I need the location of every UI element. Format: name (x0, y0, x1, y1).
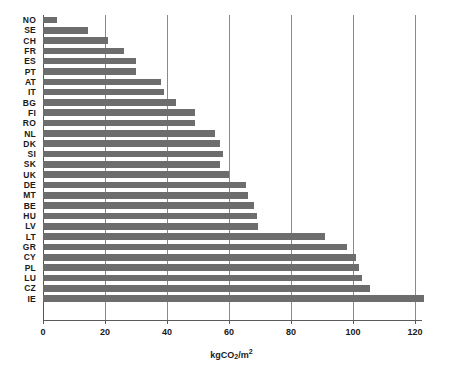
category-label-BG: BG (23, 98, 36, 108)
bar-SE (43, 27, 88, 34)
bar-row (43, 180, 443, 190)
category-label-SK: SK (24, 159, 36, 169)
bar-AT (43, 79, 161, 86)
category-label-BE: BE (24, 201, 36, 211)
bar-row (43, 98, 443, 108)
bar-CH (43, 37, 108, 44)
category-label-DE: DE (24, 180, 36, 190)
bars-layer (43, 15, 443, 320)
bar-row (43, 273, 443, 283)
bar-FR (43, 48, 124, 55)
bar-row (43, 25, 443, 35)
category-label-PT: PT (25, 67, 36, 77)
x-tick-mark-120 (415, 320, 416, 324)
x-tick-mark-60 (229, 320, 230, 324)
x-axis-line (43, 320, 422, 321)
category-label-AT: AT (25, 77, 36, 87)
bar-row (43, 139, 443, 149)
category-label-CY: CY (24, 252, 36, 262)
bar-row (43, 221, 443, 231)
bar-PL (43, 264, 359, 271)
bar-row (43, 46, 443, 56)
bar-row (43, 283, 443, 293)
category-label-FI: FI (28, 108, 36, 118)
bar-row (43, 252, 443, 262)
category-label-RO: RO (23, 118, 36, 128)
bar-NO (43, 17, 57, 24)
bar-ES (43, 58, 136, 65)
x-tick-label: 100 (345, 327, 360, 337)
bar-chart-figure: NOSECHFRESPTATITBGFIRONLDKSISKUKDEMTBEHU… (0, 0, 463, 377)
bar-GR (43, 244, 347, 251)
category-label-IT: IT (28, 87, 36, 97)
bar-row (43, 211, 443, 221)
bar-NL (43, 130, 215, 137)
bar-row (43, 87, 443, 97)
bar-LU (43, 275, 362, 282)
category-label-ES: ES (24, 56, 36, 66)
bar-row (43, 159, 443, 169)
bar-row (43, 67, 443, 77)
bar-DK (43, 140, 220, 147)
x-tick-mark-20 (105, 320, 106, 324)
bar-row (43, 129, 443, 139)
bar-row (43, 15, 443, 25)
bar-IE (43, 295, 424, 302)
bar-row (43, 36, 443, 46)
bar-FI (43, 109, 195, 116)
x-tick-mark-0 (43, 320, 44, 324)
x-axis-title-superscript: 2 (249, 348, 253, 355)
bar-IT (43, 89, 164, 96)
bar-LV (43, 223, 258, 230)
category-axis-labels: NOSECHFRESPTATITBGFIRONLDKSISKUKDEMTBEHU… (0, 15, 41, 320)
x-tick-mark-80 (291, 320, 292, 324)
category-label-FR: FR (24, 46, 36, 56)
bar-CZ (43, 285, 370, 292)
x-tick-label: 60 (224, 327, 234, 337)
category-label-IE: IE (28, 294, 36, 304)
x-tick-mark-100 (353, 320, 354, 324)
category-label-CZ: CZ (24, 283, 36, 293)
category-label-NO: NO (23, 15, 36, 25)
x-tick-label: 120 (407, 327, 422, 337)
category-label-CH: CH (23, 36, 36, 46)
x-tick-label: 0 (40, 327, 45, 337)
bar-row (43, 294, 443, 304)
bar-row (43, 190, 443, 200)
x-tick-label: 40 (162, 327, 172, 337)
bar-PT (43, 68, 136, 75)
bar-BG (43, 99, 176, 106)
bar-row (43, 232, 443, 242)
bar-row (43, 263, 443, 273)
bar-LT (43, 233, 325, 240)
bar-SK (43, 161, 220, 168)
bar-row (43, 118, 443, 128)
bar-DE (43, 182, 246, 189)
category-label-LT: LT (26, 232, 36, 242)
category-label-SE: SE (24, 25, 36, 35)
bar-HU (43, 213, 257, 220)
bar-row (43, 77, 443, 87)
x-tick-mark-40 (167, 320, 168, 324)
x-axis-title: kgCO2/m2 (0, 348, 463, 360)
category-label-MT: MT (23, 190, 36, 200)
bar-row (43, 170, 443, 180)
category-label-PL: PL (25, 263, 36, 273)
category-label-LV: LV (25, 221, 36, 231)
category-label-SI: SI (28, 149, 36, 159)
x-tick-label: 20 (100, 327, 110, 337)
x-axis-title-mid: /m (238, 350, 249, 360)
x-axis-title-prefix: kgCO (210, 350, 234, 360)
bar-row (43, 242, 443, 252)
bar-BE (43, 202, 254, 209)
category-label-LU: LU (24, 273, 36, 283)
bar-row (43, 201, 443, 211)
category-label-UK: UK (23, 170, 36, 180)
bar-UK (43, 171, 229, 178)
category-label-DK: DK (23, 139, 36, 149)
category-label-NL: NL (24, 129, 36, 139)
bar-row (43, 149, 443, 159)
bar-CY (43, 254, 356, 261)
bar-row (43, 108, 443, 118)
bar-MT (43, 192, 248, 199)
